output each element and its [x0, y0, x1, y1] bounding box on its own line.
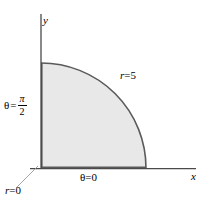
r-zero-value: 0 — [16, 184, 22, 196]
polar-region-figure: y x r=5 θ=0 r=0 θ= π 2 — [0, 0, 205, 207]
figure-canvas — [0, 0, 205, 207]
theta-zero-label: θ=0 — [80, 172, 97, 183]
x-axis-label: x — [191, 171, 196, 182]
theta-half-pi-equals-sign: = — [10, 100, 16, 111]
radius-value: 5 — [131, 69, 137, 81]
pi-over-two-fraction: π 2 — [18, 94, 27, 117]
radius-label: r=5 — [120, 70, 136, 81]
theta-half-pi-symbol: θ — [4, 100, 9, 111]
fraction-denominator-two: 2 — [19, 106, 26, 117]
r-zero-label: r=0 — [5, 185, 21, 196]
theta-half-pi-label: θ= π 2 — [4, 94, 27, 117]
y-axis-label: y — [43, 15, 48, 26]
fraction-numerator-pi: π — [18, 94, 25, 105]
theta-zero-value: 0 — [92, 171, 98, 183]
